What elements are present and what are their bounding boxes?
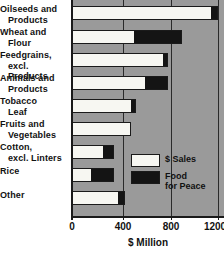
bar-segment-food-for-peace — [118, 191, 125, 205]
category-label-line2: Vegetables — [0, 130, 70, 141]
category-label-oilseeds-and-products: Oilseeds and Products — [0, 4, 70, 25]
bar-segment-sales — [72, 168, 91, 182]
legend: $ Sales Food for Peace — [131, 154, 219, 195]
x-tick-label-400: 400 — [115, 221, 132, 232]
category-label-line1: Tobacco — [0, 96, 37, 106]
bar-row — [72, 99, 136, 113]
y-axis-line — [71, 0, 73, 220]
category-label-line1: Fruits and — [0, 119, 45, 129]
x-axis-title: $ Million — [72, 237, 224, 248]
bar-segment-sales — [72, 99, 131, 113]
bar-chart: Oilseeds and Products Wheat and Flour Fe… — [0, 0, 224, 254]
bar-segment-sales — [72, 191, 118, 205]
category-label-line2: Products — [0, 84, 70, 95]
x-tick-400 — [123, 216, 124, 220]
x-tick-label-0: 0 — [69, 221, 75, 232]
legend-item-food-for-peace: Food for Peace — [131, 171, 219, 191]
bar-segment-food-for-peace — [91, 168, 114, 182]
category-label-cotton-excl-linters: Cotton, excl. Linters — [0, 142, 70, 163]
bar-row — [72, 30, 182, 44]
bar-segment-sales — [72, 6, 211, 20]
bar-segment-sales — [72, 53, 163, 67]
category-label-rice: Rice — [0, 166, 70, 177]
x-axis-line — [71, 216, 224, 218]
category-label-line1: Rice — [0, 166, 19, 176]
x-tick-0 — [72, 216, 73, 220]
category-label-line2: Flour — [0, 38, 70, 49]
x-tick-label-800: 800 — [163, 221, 180, 232]
legend-label-sales: $ Sales — [165, 154, 196, 164]
category-label-line2: excl. Linters — [0, 153, 70, 164]
bar-segment-sales — [72, 122, 131, 136]
x-tick-800 — [171, 216, 172, 220]
bar-row — [72, 145, 114, 159]
bar-row — [72, 191, 125, 205]
bar-segment-sales — [72, 76, 145, 90]
bar-row — [72, 53, 168, 67]
legend-swatch-food-for-peace — [131, 171, 160, 184]
bar-segment-sales — [72, 145, 103, 159]
bar-row — [72, 168, 114, 182]
bar-row — [72, 6, 218, 20]
bar-segment-food-for-peace — [134, 30, 182, 44]
category-label-animals-and-products: Animals and Products — [0, 73, 70, 94]
category-label-other: Other — [0, 190, 70, 201]
category-label-line1: Oilseeds and — [0, 4, 57, 14]
category-label-fruits-and-vegetables: Fruits and Vegetables — [0, 119, 70, 140]
legend-swatch-sales — [131, 154, 160, 167]
x-tick-label-1200: 1200 — [204, 221, 224, 232]
bar-row — [72, 122, 131, 136]
legend-label-food-for-peace: Food for Peace — [165, 171, 206, 191]
bar-segment-sales — [72, 30, 134, 44]
category-label-line1: Feedgrains, — [0, 50, 52, 60]
bar-row — [72, 76, 168, 90]
x-tick-1200 — [218, 216, 219, 220]
category-label-line2: Products — [0, 15, 70, 26]
category-label-line1: Other — [0, 190, 25, 200]
category-label-wheat-and-flour: Wheat and Flour — [0, 27, 70, 48]
category-label-line1: Wheat and — [0, 27, 46, 37]
bar-segment-food-for-peace — [163, 53, 168, 67]
bar-segment-food-for-peace — [211, 6, 218, 20]
category-label-tobacco-leaf: Tobacco Leaf — [0, 96, 70, 117]
bar-segment-food-for-peace — [131, 99, 136, 113]
bar-segment-food-for-peace — [103, 145, 114, 159]
legend-item-sales: $ Sales — [131, 154, 219, 167]
category-label-line1: Cotton, — [0, 142, 32, 152]
bar-segment-food-for-peace — [145, 76, 168, 90]
category-label-line2: Leaf — [0, 107, 70, 118]
category-label-line1: Animals and — [0, 73, 55, 83]
